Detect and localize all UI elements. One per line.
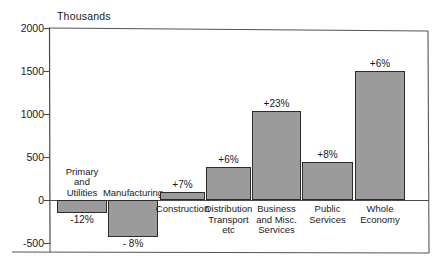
y-tick-0: 0 xyxy=(0,195,44,205)
bar-value-label: -12% xyxy=(57,214,107,225)
bar xyxy=(355,71,405,200)
y-tick-label: 1500 xyxy=(4,66,44,76)
category-label: Manufacturing xyxy=(98,188,168,199)
bar-value-label: - 8% xyxy=(108,238,158,249)
figure-caption xyxy=(0,259,435,267)
y-tick-label: 500 xyxy=(4,152,44,162)
y-tick-minus500: -500 xyxy=(0,238,44,248)
y-tick-2000: 2000 xyxy=(0,23,44,33)
bar-value-label: +8% xyxy=(302,149,353,160)
bar-value-label: +7% xyxy=(160,179,205,190)
bar xyxy=(57,200,107,213)
plot-area: -12%PrimaryandUtilities- 8%Manufacturing… xyxy=(50,14,430,254)
bar-value-label: +6% xyxy=(355,58,405,69)
bar xyxy=(206,167,251,200)
y-tick-500: 500 xyxy=(0,152,44,162)
bar-chart: Thousands 2000 1500 1000 500 0 -500 -12%… xyxy=(0,0,435,267)
y-tick-label: 1000 xyxy=(4,109,44,119)
bar xyxy=(160,192,205,200)
y-tick-label: 0 xyxy=(4,195,44,205)
category-label-line: Whole xyxy=(345,204,415,215)
category-label-line: Services xyxy=(242,225,311,236)
category-label: WholeEconomy xyxy=(345,204,415,225)
category-label-line: and xyxy=(47,177,117,188)
y-tick-label: -500 xyxy=(4,238,44,248)
category-label-line: Manufacturing xyxy=(98,188,168,199)
bar-value-label: +6% xyxy=(206,154,251,165)
bar-value-label: +23% xyxy=(252,98,301,109)
bar xyxy=(302,162,353,200)
y-tick-1500: 1500 xyxy=(0,66,44,76)
y-tick-label: 2000 xyxy=(4,23,44,33)
category-label-line: Economy xyxy=(345,215,415,226)
y-tick-1000: 1000 xyxy=(0,109,44,119)
bar xyxy=(252,111,301,200)
